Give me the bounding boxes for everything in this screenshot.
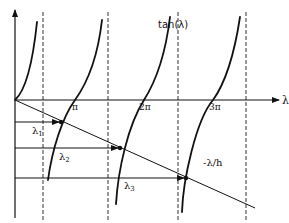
root-label-1: λ1 (32, 126, 43, 138)
root-label-2: λ2 (59, 152, 70, 164)
tick-pi: π (72, 103, 78, 112)
line-label: -λ/h (203, 158, 223, 168)
asymptote-lines (43, 12, 246, 220)
x-axis-label: λ (282, 95, 289, 106)
root-label-3: λ3 (124, 181, 135, 193)
tan-root-diagram: tan(λ) λ π 2π 3π λ1 λ2 λ3 -λ/h (0, 0, 289, 223)
tick-3pi: 3π (209, 103, 221, 112)
tick-2pi: 2π (139, 103, 151, 112)
tan-curve-label: tan(λ) (158, 20, 188, 30)
